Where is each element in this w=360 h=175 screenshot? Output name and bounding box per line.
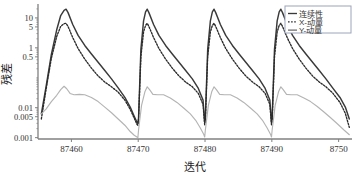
y-tick-label-5: 0.005 [14,112,33,122]
x-tick-label-4: 8750 [330,144,349,154]
series-line-1 [41,23,349,127]
x-axis-title: 迭代 [184,161,206,173]
y-tick-label-1: 5 [29,22,33,32]
y-tick-label-3: 0.5 [22,52,33,62]
x-tick-label-1: 87470 [127,144,150,154]
legend: 连续性X-动量Y-动量 [285,6,351,35]
y-axis-title: 残差 [0,63,13,85]
x-tick-label-2: 87480 [194,144,217,154]
y-tick-label-6: 0.001 [14,133,33,143]
x-tick-label-3: 87490 [261,144,284,154]
residual-chart: 10510.50.010.0050.0018746087470874808749… [0,0,360,175]
x-tick-label-0: 87460 [60,144,83,154]
legend-label-2: Y-动量 [299,25,322,35]
chart-canvas: 10510.50.010.0050.0018746087470874808749… [0,0,360,175]
series-line-2 [41,86,349,137]
